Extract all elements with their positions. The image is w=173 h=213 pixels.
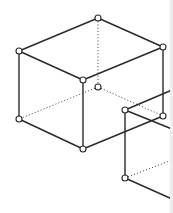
vertices bbox=[16, 15, 166, 181]
isometric-cube-diagram bbox=[0, 0, 173, 213]
vertex-bottom-front bbox=[80, 146, 86, 152]
box2-vertex-bottom-left bbox=[122, 175, 128, 181]
cube-edge bbox=[19, 51, 83, 80]
visible-edges bbox=[19, 18, 163, 149]
vertex-top-back bbox=[95, 15, 101, 21]
vertex-top-left bbox=[16, 48, 22, 54]
box2-edge bbox=[125, 110, 172, 129]
box2-edge bbox=[125, 90, 172, 110]
vertex-top-right bbox=[160, 44, 166, 50]
box2-hidden-edge bbox=[125, 160, 172, 178]
page-edge-strip bbox=[170, 0, 173, 213]
vertex-top-front bbox=[80, 77, 86, 83]
cube-edge bbox=[98, 18, 163, 47]
hidden-edges bbox=[19, 18, 163, 119]
cube-edge bbox=[19, 18, 98, 51]
hidden-edge bbox=[19, 87, 98, 119]
vertex-bottom-right bbox=[160, 113, 166, 119]
box2-edge bbox=[125, 178, 172, 199]
cube-edge bbox=[19, 119, 83, 149]
box2-vertex-top-left bbox=[122, 107, 128, 113]
vertex-bottom-back bbox=[95, 84, 101, 90]
cube-edge bbox=[83, 47, 163, 80]
second-box bbox=[125, 90, 172, 199]
vertex-bottom-left bbox=[16, 116, 22, 122]
